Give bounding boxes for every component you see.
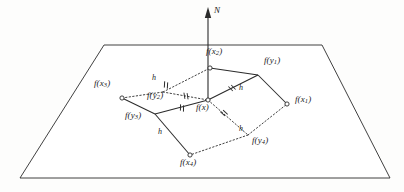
normal-vector-label: N xyxy=(214,6,220,15)
label-fx2-subscript: 2 xyxy=(216,49,219,56)
label-fy2: f(y2) xyxy=(147,91,163,101)
h-label-lower-left: h xyxy=(158,128,162,136)
figure-canvas: Nf(x1)f(x2)f(x3)f(x4)f(y1)f(y2)f(y3)f(y4… xyxy=(0,0,404,192)
node-marker-fx3[interactable] xyxy=(120,96,124,100)
label-fy3: f(y3) xyxy=(125,111,141,121)
node-marker-fx1[interactable] xyxy=(285,102,289,106)
label-fx1: f(x1) xyxy=(295,95,311,105)
label-fx4: f(x4) xyxy=(180,158,196,168)
label-fx2: f(x2) xyxy=(206,47,222,57)
label-fx3-subscript: 3 xyxy=(104,81,107,88)
label-fx3: f(x3) xyxy=(94,79,110,89)
label-fy1-subscript: 1 xyxy=(274,58,277,65)
label-fy2-subscript: 2 xyxy=(157,93,160,100)
label-fx4-subscript: 4 xyxy=(190,160,193,167)
label-center: f(x) xyxy=(196,103,209,112)
normal-arrowhead xyxy=(205,7,211,18)
h-label-upper-right: h xyxy=(239,84,243,92)
label-fy1: f(y1) xyxy=(264,56,280,66)
label-fy3-subscript: 3 xyxy=(135,113,138,120)
h-label-lower-right: h xyxy=(239,125,243,133)
label-fy4: f(y4) xyxy=(252,136,268,146)
h-label-upper-left: h xyxy=(152,74,156,82)
label-fy4-subscript: 4 xyxy=(262,138,265,145)
node-marker-fx2[interactable] xyxy=(208,66,212,70)
label-fx1-subscript: 1 xyxy=(305,97,308,104)
diagram-svg xyxy=(0,0,404,192)
